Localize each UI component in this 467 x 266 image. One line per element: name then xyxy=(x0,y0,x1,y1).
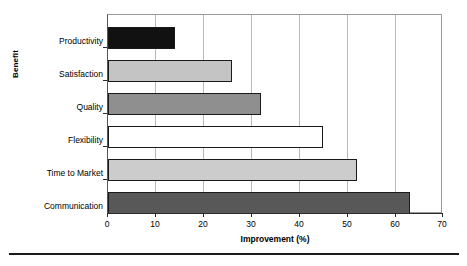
x-axis-tick-10 xyxy=(155,213,156,217)
bar-flexibility xyxy=(108,126,323,148)
x-tick-label-40: 40 xyxy=(284,219,314,230)
y-tick-label-satisfaction: Satisfaction xyxy=(22,68,103,80)
y-tick-label-time-to-market: Time to Market xyxy=(22,167,103,179)
x-axis-title: Improvement (%) xyxy=(107,234,443,245)
x-axis-tick-40 xyxy=(299,213,300,217)
x-axis-tick-50 xyxy=(347,213,348,217)
gridline-50 xyxy=(347,15,348,212)
bar-chart-figure: Benefit Productivity Satisfaction Qualit… xyxy=(0,0,467,266)
bottom-divider xyxy=(9,253,459,255)
gridline-60 xyxy=(395,15,396,212)
y-axis-tick-3 xyxy=(103,146,107,147)
y-tick-label-quality: Quality xyxy=(22,101,103,113)
y-axis-tick-0 xyxy=(103,47,107,48)
y-tick-label-communication: Communication xyxy=(22,200,103,212)
x-axis-tick-70 xyxy=(442,213,443,217)
x-axis-tick-60 xyxy=(395,213,396,217)
y-tick-label-flexibility: Flexibility xyxy=(22,134,103,146)
y-axis-tick-1 xyxy=(103,80,107,81)
y-axis-tick-labels: Productivity Satisfaction Quality Flexib… xyxy=(22,14,103,213)
y-tick-label-productivity: Productivity xyxy=(22,35,103,47)
y-axis-tick-4 xyxy=(103,179,107,180)
y-axis-tick-2 xyxy=(103,113,107,114)
bar-communication xyxy=(108,192,410,214)
x-axis-tick-20 xyxy=(203,213,204,217)
y-axis-title: Benefit xyxy=(9,29,23,99)
bar-productivity xyxy=(108,27,175,49)
x-tick-label-20: 20 xyxy=(188,219,218,230)
x-axis-line xyxy=(107,213,443,214)
x-tick-label-70: 70 xyxy=(427,219,457,230)
x-axis-tick-0 xyxy=(107,213,108,217)
x-tick-label-30: 30 xyxy=(236,219,266,230)
bar-satisfaction xyxy=(108,60,232,82)
gridline-40 xyxy=(299,15,300,212)
x-tick-label-10: 10 xyxy=(140,219,170,230)
x-tick-label-60: 60 xyxy=(380,219,410,230)
x-axis-tick-30 xyxy=(251,213,252,217)
x-tick-label-50: 50 xyxy=(332,219,362,230)
x-tick-label-0: 0 xyxy=(92,219,122,230)
bar-time-to-market xyxy=(108,159,357,181)
plot-area xyxy=(107,14,442,213)
bar-quality xyxy=(108,93,261,115)
